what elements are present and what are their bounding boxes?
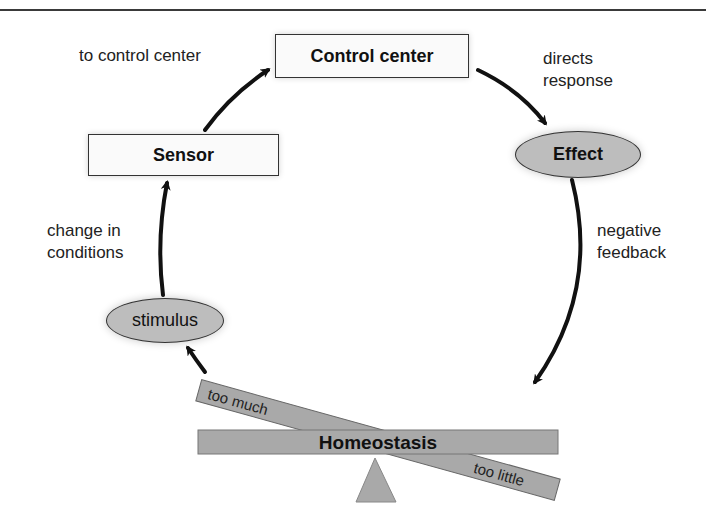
effect-label: Effect (553, 144, 603, 165)
to-control-center-label: to control center (79, 45, 201, 67)
change-in-conditions-label: change in conditions (47, 220, 124, 264)
arrow-sensor-to-control-center (205, 70, 268, 130)
arrow-effect-to-homeostasis (535, 180, 580, 382)
directs-response-label: directs response (543, 48, 613, 92)
sensor-node: Sensor (88, 134, 279, 176)
effect-node: Effect (515, 131, 641, 178)
homeostasis-label: Homeostasis (319, 432, 437, 453)
control-center-label: Control center (310, 46, 433, 67)
negative-feedback-label: negative feedback (597, 220, 666, 264)
stimulus-label: stimulus (132, 310, 198, 331)
control-center-node: Control center (275, 34, 469, 78)
fulcrum-triangle (356, 458, 396, 502)
arrow-stimulus-to-sensor (160, 183, 167, 295)
stimulus-node: stimulus (106, 298, 224, 343)
arrow-homeostasis-to-stimulus (188, 348, 205, 372)
arrow-control-center-to-effect (478, 70, 545, 123)
sensor-label: Sensor (153, 145, 214, 166)
